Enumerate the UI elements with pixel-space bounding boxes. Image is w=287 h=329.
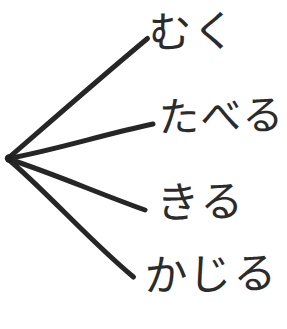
branch-line-kiru[interactable] (9, 159, 146, 210)
root-node[interactable] (5, 154, 13, 162)
branch-label-kajiru: かじる (144, 252, 278, 298)
diagram-canvas: むく たべる きる かじる (0, 0, 287, 329)
branch-line-kajiru[interactable] (9, 160, 134, 278)
branch-label-taberu: たべる (158, 95, 286, 139)
branch-label-kiru: きる (156, 180, 244, 225)
branch-label-muku: むく (148, 10, 238, 56)
